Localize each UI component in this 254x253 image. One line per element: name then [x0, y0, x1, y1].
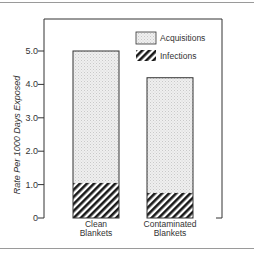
legend-swatch-acquisitions	[136, 32, 156, 44]
y-tick-label: 0	[33, 213, 38, 223]
category-label: Blankets	[154, 228, 187, 238]
legend-label-acquisitions: Acquisitions	[160, 33, 205, 43]
y-tick-label: 1.0	[25, 180, 38, 190]
segment-acquisitions	[147, 78, 193, 193]
segment-infections	[147, 193, 193, 218]
legend: Acquisitions Infections	[136, 32, 205, 61]
plot-frame	[44, 19, 222, 218]
y-axis-label: Rate Per 1000 Days Exposed	[12, 75, 22, 195]
segment-acquisitions	[73, 51, 119, 183]
y-tick-label: 5.0	[25, 46, 38, 56]
y-tick-label: 4.0	[25, 79, 38, 89]
category-labels: CleanBlanketsContaminatedBlankets	[80, 219, 197, 238]
stacked-bar-chart: 01.02.03.04.05.0 Rate Per 1000 Days Expo…	[0, 0, 254, 253]
y-tick-label: 3.0	[25, 113, 38, 123]
category-label: Blankets	[80, 228, 113, 238]
y-axis: 01.02.03.04.05.0	[25, 19, 44, 223]
legend-swatch-infections	[136, 50, 156, 61]
legend-label-infections: Infections	[160, 51, 196, 61]
bar-contaminated-blankets	[147, 78, 193, 218]
bars	[73, 51, 193, 218]
y-tick-label: 2.0	[25, 146, 38, 156]
bar-clean-blankets	[73, 51, 119, 218]
segment-infections	[73, 183, 119, 218]
